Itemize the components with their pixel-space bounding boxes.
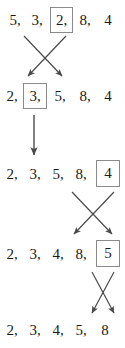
number-row: 2, 3, 4, 8, 5 xyxy=(0,242,125,266)
number-cell: 2, xyxy=(4,243,20,265)
number-cell: 4 xyxy=(101,9,115,31)
number-cell-highlighted: 5 xyxy=(96,240,120,267)
number-cell: 4 xyxy=(101,85,115,107)
number-cell-highlighted: 2, xyxy=(50,7,73,33)
number-cell: 3, xyxy=(27,319,43,341)
number-cell: 4, xyxy=(50,243,66,265)
number-cell: 5, xyxy=(7,9,23,31)
cross-swap-arrows-1 xyxy=(24,36,66,76)
number-cell: 5, xyxy=(50,163,66,185)
number-cell: 3, xyxy=(29,9,45,31)
number-row: 2, 3, 5, 8, 4 xyxy=(0,162,125,186)
number-cell: 3, xyxy=(27,243,43,265)
number-cell: 8, xyxy=(73,163,89,185)
number-cell: 2, xyxy=(4,85,20,107)
number-cell: 3, xyxy=(27,163,43,185)
number-cell: 2, xyxy=(4,319,20,341)
number-cell: 8, xyxy=(77,9,93,31)
sorting-trace-diagram: 5, 3, 2, 8, 4 2, 3, 5, 8, 4 2, 3, 5, 8, … xyxy=(0,0,125,348)
number-cell: 8 xyxy=(98,319,112,341)
number-cell: 4, xyxy=(50,319,66,341)
number-cell: 8, xyxy=(73,243,89,265)
number-cell: 5, xyxy=(73,319,89,341)
number-cell: 8, xyxy=(77,85,93,107)
number-cell: 5, xyxy=(52,85,68,107)
cross-swap-arrows-3 xyxy=(72,192,114,234)
number-row: 2, 3, 5, 8, 4 xyxy=(0,84,125,108)
number-cell-highlighted: 4 xyxy=(96,160,120,187)
cross-swap-arrows-4 xyxy=(92,272,114,313)
number-cell: 2, xyxy=(4,163,20,185)
number-row: 2, 3, 4, 5, 8 xyxy=(0,318,125,342)
number-cell-highlighted: 3, xyxy=(23,83,47,109)
number-row: 5, 3, 2, 8, 4 xyxy=(0,8,125,32)
